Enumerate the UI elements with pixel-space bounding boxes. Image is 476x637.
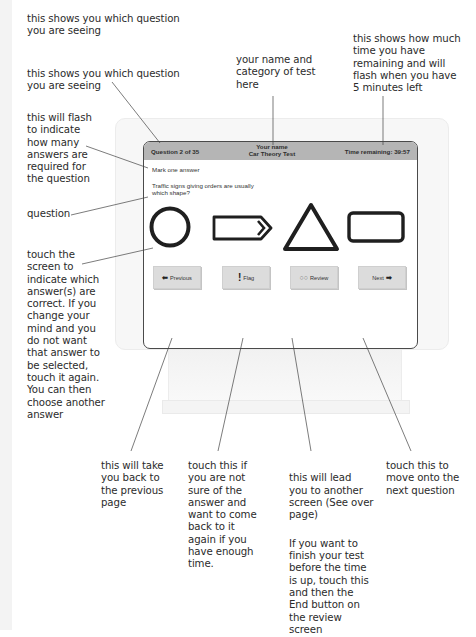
page-edge-strip bbox=[0, 0, 12, 630]
flag-label: Flag bbox=[243, 275, 254, 281]
answer-triangle[interactable] bbox=[281, 201, 341, 253]
callout-candidate-name: your name and category of test here bbox=[236, 54, 315, 91]
next-label: Next bbox=[372, 275, 384, 281]
callout-next-text: touch this to move onto the next questio… bbox=[386, 460, 459, 497]
answer-circle[interactable] bbox=[148, 205, 192, 249]
test-screen: Question 2 of 35 Your name Car Theory Te… bbox=[143, 141, 418, 349]
previous-label: Previous bbox=[170, 275, 192, 281]
callout-flag-text: touch this if you are not sure of the an… bbox=[188, 460, 257, 571]
callout-question-counter: this shows you which question you are se… bbox=[27, 13, 180, 38]
callout-time-remaining-text: this shows how much time you have remain… bbox=[353, 33, 461, 94]
review-label: Review bbox=[310, 275, 328, 281]
answer-instruction: Mark one answer bbox=[152, 166, 199, 173]
callout-answers-required-text: this will flash to indicate how many ans… bbox=[27, 112, 92, 186]
test-category: Car Theory Test bbox=[249, 151, 296, 158]
previous-button[interactable]: ⬅ Previous bbox=[153, 266, 201, 289]
triangle-sign-icon bbox=[281, 201, 341, 253]
arrow-left-icon: ⬅ bbox=[162, 274, 168, 282]
flag-button[interactable]: ! Flag bbox=[222, 266, 270, 289]
circle-sign-icon bbox=[148, 205, 192, 249]
callout-review-end-text: If you want to finish your test before t… bbox=[289, 538, 373, 636]
question-text: Traffic signs giving orders are usually … bbox=[152, 183, 262, 197]
next-button[interactable]: Next ➡ bbox=[358, 266, 406, 289]
glasses-icon: ○○ bbox=[300, 274, 308, 281]
callout-candidate-name-text: your name and category of test here bbox=[236, 54, 315, 91]
monitor-stand-base bbox=[162, 400, 410, 414]
question-counter: Question 2 of 35 bbox=[151, 148, 199, 155]
callout-touch-screen: touch the screen to indicate which answe… bbox=[27, 249, 105, 421]
screen-header: Question 2 of 35 Your name Car Theory Te… bbox=[144, 142, 417, 160]
arrow-sign-icon bbox=[212, 214, 274, 242]
rectangle-sign-icon bbox=[347, 211, 405, 245]
callout-review-text: this will lead you to another screen (Se… bbox=[289, 472, 373, 521]
callout-flag: touch this if you are not sure of the an… bbox=[188, 460, 257, 571]
candidate-info: Your name Car Theory Test bbox=[249, 144, 296, 157]
answer-arrow-rectangle[interactable] bbox=[212, 214, 274, 242]
time-remaining: Time remaining: 39:57 bbox=[345, 148, 410, 155]
callout-previous: this will take you back to the previous … bbox=[101, 460, 164, 509]
arrow-right-icon: ➡ bbox=[386, 274, 392, 282]
answer-rectangle[interactable] bbox=[347, 211, 405, 245]
callout-question-counter-text: this shows you which question you are se… bbox=[27, 13, 180, 38]
callout-touch-screen-text: touch the screen to indicate which answe… bbox=[27, 249, 105, 421]
callout-previous-text: this will take you back to the previous … bbox=[101, 460, 164, 509]
callout-next: touch this to move onto the next questio… bbox=[386, 460, 459, 497]
exclamation-icon: ! bbox=[238, 272, 241, 283]
callout-answers-required: this will flash to indicate how many ans… bbox=[27, 112, 92, 186]
review-button[interactable]: ○○ Review bbox=[290, 266, 338, 289]
callout-question-text: question bbox=[27, 208, 70, 220]
callout-time-remaining: this shows how much time you have remain… bbox=[353, 33, 461, 94]
callout-review: this will lead you to another screen (Se… bbox=[289, 460, 373, 637]
callout-question-counter-2: this shows you which question you are se… bbox=[27, 68, 180, 93]
callout-question-counter-label: this shows you which question you are se… bbox=[27, 68, 180, 93]
callout-question: question bbox=[27, 208, 70, 220]
